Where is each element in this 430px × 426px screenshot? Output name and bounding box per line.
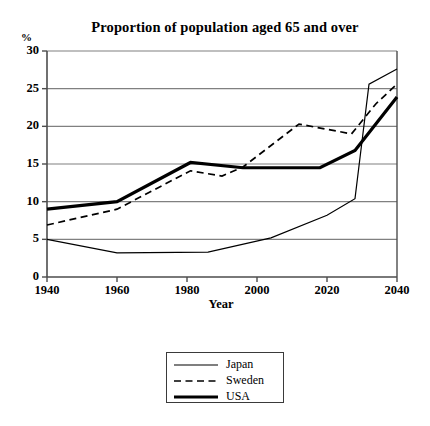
chart-legend: JapanSwedenUSA bbox=[166, 352, 284, 403]
legend-label: Sweden bbox=[226, 373, 264, 388]
x-axis-tick-label: 2040 bbox=[374, 283, 420, 298]
y-axis-tick-label: 25 bbox=[13, 81, 39, 96]
legend-item-usa[interactable]: USA bbox=[167, 388, 285, 405]
y-axis-tick-label: 10 bbox=[13, 194, 39, 209]
legend-item-japan[interactable]: Japan bbox=[167, 356, 285, 373]
series-line-usa bbox=[47, 97, 397, 209]
legend-swatch-usa-icon bbox=[173, 390, 219, 404]
x-axis-tick-label: 1960 bbox=[94, 283, 140, 298]
x-axis-tick-label: 2000 bbox=[234, 283, 280, 298]
y-axis-tick-label: 15 bbox=[13, 156, 39, 171]
legend-label: USA bbox=[226, 389, 250, 404]
x-axis-tick-label: 1940 bbox=[24, 283, 70, 298]
data-series-group bbox=[47, 69, 397, 253]
legend-item-sweden[interactable]: Sweden bbox=[167, 372, 285, 389]
gridlines bbox=[47, 51, 397, 239]
x-axis-title: Year bbox=[176, 297, 266, 312]
series-line-japan bbox=[47, 69, 397, 253]
x-axis-tick-label: 1980 bbox=[164, 283, 210, 298]
legend-swatch-japan-icon bbox=[173, 358, 219, 372]
x-axis-tick-label: 2020 bbox=[304, 283, 350, 298]
y-axis-tick-label: 20 bbox=[13, 118, 39, 133]
chart-container: Proportion of population aged 65 and ove… bbox=[0, 0, 430, 426]
y-axis-tick-label: 0 bbox=[13, 269, 39, 284]
legend-label: Japan bbox=[226, 357, 253, 372]
y-axis-tick-label: 5 bbox=[13, 231, 39, 246]
y-axis-tick-label: 30 bbox=[13, 43, 39, 58]
legend-swatch-sweden-icon bbox=[173, 374, 219, 388]
